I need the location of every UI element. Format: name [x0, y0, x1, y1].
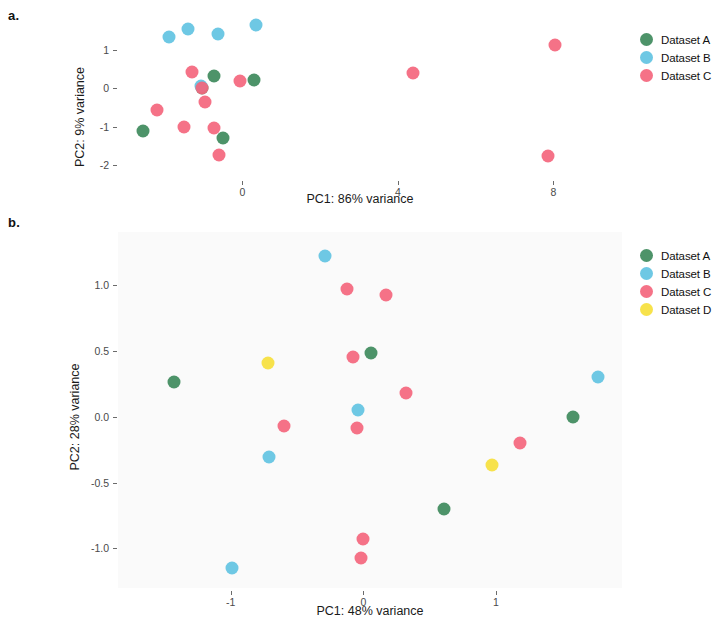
scatter-point [226, 562, 239, 575]
scatter-point [365, 347, 378, 360]
legend-swatch-icon [640, 303, 653, 316]
legend-item[interactable]: Dataset C [640, 283, 711, 300]
y-tick-mark [113, 417, 117, 418]
legend-swatch-icon [640, 249, 653, 262]
scatter-point [263, 451, 276, 464]
panel-b-plot-area [118, 232, 622, 588]
y-tick-mark [113, 548, 117, 549]
panel-b-y-axis-title: PC2: 28% variance [68, 327, 82, 507]
panel-b-figure: -1011.00.50.0-0.5-1.0 PC1: 48% variance … [0, 0, 724, 625]
legend-item[interactable]: Dataset A [640, 247, 711, 264]
x-tick-mark [231, 591, 232, 595]
x-tick-label: 1 [493, 596, 499, 608]
scatter-point [261, 356, 274, 369]
legend-label: Dataset C [661, 286, 711, 298]
legend-item[interactable]: Dataset B [640, 265, 711, 282]
scatter-point [277, 419, 290, 432]
scatter-point [486, 459, 499, 472]
scatter-point [592, 371, 605, 384]
scatter-point [354, 551, 367, 564]
scatter-point [350, 422, 363, 435]
x-tick-mark [363, 591, 364, 595]
scatter-point [167, 376, 180, 389]
legend-item[interactable]: Dataset D [640, 301, 711, 318]
scatter-point [379, 289, 392, 302]
y-tick-mark [113, 351, 117, 352]
legend-swatch-icon [640, 267, 653, 280]
legend-label: Dataset A [661, 250, 710, 262]
y-tick-label: 1.0 [75, 279, 109, 291]
scatter-point [318, 249, 331, 262]
scatter-point [357, 533, 370, 546]
panel-b-x-axis-title: PC1: 48% variance [316, 604, 423, 618]
legend-swatch-icon [640, 285, 653, 298]
legend-label: Dataset D [661, 304, 711, 316]
scatter-point [566, 410, 579, 423]
scatter-point [438, 502, 451, 515]
scatter-point [341, 282, 354, 295]
y-tick-label: -1.0 [75, 542, 109, 554]
panel-b-legend: Dataset ADataset BDataset CDataset D [640, 247, 711, 319]
x-tick-label: -1 [226, 596, 235, 608]
scatter-point [346, 351, 359, 364]
y-tick-mark [113, 483, 117, 484]
x-tick-mark [496, 591, 497, 595]
y-tick-mark [113, 285, 117, 286]
scatter-point [513, 436, 526, 449]
scatter-point [399, 386, 412, 399]
scatter-point [352, 404, 365, 417]
legend-label: Dataset B [661, 268, 711, 280]
